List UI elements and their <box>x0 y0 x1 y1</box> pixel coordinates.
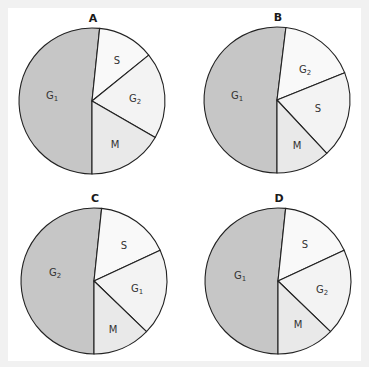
pie-chart-c: C G2SG1M <box>21 192 167 354</box>
pie-slice-g2 <box>21 208 102 354</box>
slice-label-s: S <box>302 239 308 250</box>
chart-title: D <box>274 192 283 205</box>
slice-label-s: S <box>121 240 127 251</box>
pie-slice-g1 <box>19 28 100 174</box>
slice-label-m: M <box>294 319 303 330</box>
chart-title: A <box>89 12 98 25</box>
pie-chart-d: D G1SG2M <box>205 192 351 354</box>
slice-label-s: S <box>315 103 321 114</box>
pie-charts-figure: A G1SG2M B G1G2SM C G2SG1M D G1SG2M <box>0 0 369 367</box>
chart-title: C <box>91 192 99 205</box>
slice-label-m: M <box>293 140 302 151</box>
pie-chart-a: A G1SG2M <box>19 12 165 174</box>
slice-label-s: S <box>114 55 120 66</box>
slice-label-m: M <box>111 139 120 150</box>
slice-label-m: M <box>109 324 118 335</box>
pie-chart-b: B G1G2SM <box>204 11 350 173</box>
pie-slice-g1 <box>204 27 286 173</box>
chart-title: B <box>274 11 282 24</box>
